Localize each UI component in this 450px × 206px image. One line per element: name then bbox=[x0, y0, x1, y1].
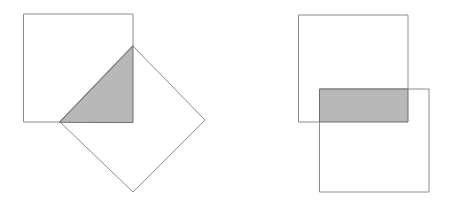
left-panel bbox=[24, 14, 205, 192]
geometry-figure bbox=[0, 0, 450, 206]
band-intersection bbox=[320, 89, 408, 122]
figure-canvas bbox=[0, 0, 450, 206]
right-panel bbox=[299, 15, 429, 192]
